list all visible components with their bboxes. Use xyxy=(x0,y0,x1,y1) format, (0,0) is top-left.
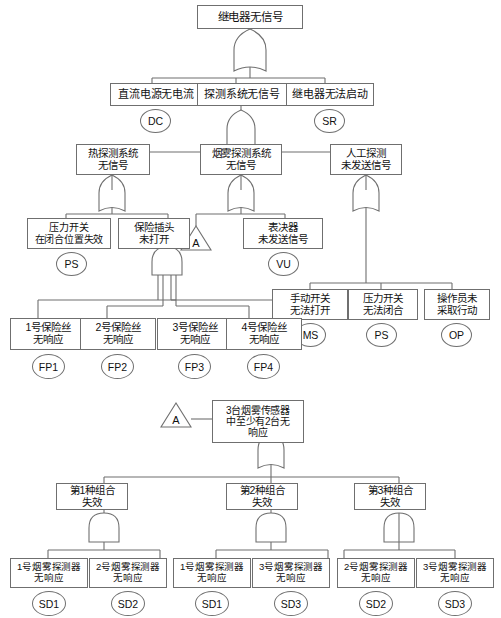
code-sd2-b[interactable]: SD2 xyxy=(359,591,393,616)
fault-tree-diagram: 继电器无信号 直流电源无电流 DC 探测系统无信号 继电器无法启动 SR 热探测… xyxy=(0,0,501,618)
gate-or-top xyxy=(234,29,266,71)
node-smoke-detector-3b[interactable]: 3号烟雾探测器 无响应 xyxy=(416,558,494,588)
code-sd3-b[interactable]: SD3 xyxy=(438,591,472,616)
code-fp2[interactable]: FP2 xyxy=(101,354,134,379)
node-label: 1号烟雾探测器 无响应 xyxy=(16,562,82,583)
node-label: 直流电源无电流 xyxy=(117,88,195,100)
node-relay-start[interactable]: 继电器无法启动 xyxy=(286,83,374,106)
node-label: 探测系统无信号 xyxy=(203,88,281,100)
node-label: 第2种组合 失效 xyxy=(239,485,286,509)
code-label: SR xyxy=(322,115,337,127)
node-label: 1号保险丝 无响应 xyxy=(25,322,72,346)
gate-or-detection xyxy=(227,110,255,148)
code-fp4[interactable]: FP4 xyxy=(247,354,280,379)
gate-and-combo-2 xyxy=(256,513,286,542)
node-smoke-detector-2a[interactable]: 2号烟雾探测器 无响应 xyxy=(89,558,167,588)
node-label: 3号烟雾探测器 无响应 xyxy=(422,562,488,583)
node-fuse-3[interactable]: 3号保险丝 无响应 xyxy=(157,318,233,350)
node-pressure-switch-close-fail[interactable]: 压力开关 无法闭合 xyxy=(348,289,418,320)
node-label: 4号保险丝 无响应 xyxy=(241,322,288,346)
code-label: SD2 xyxy=(118,598,138,610)
transfer-id: A xyxy=(192,237,199,249)
transfer-label-lower: A xyxy=(161,403,191,429)
node-manual-detection[interactable]: 人工探测 未发送信号 xyxy=(330,144,402,175)
node-smoke-detector-1b[interactable]: 1号烟雾探测器 无响应 xyxy=(173,558,251,588)
node-label: 第3种组合 失效 xyxy=(367,485,414,509)
node-label: 2号烟雾探测器 无响应 xyxy=(95,562,161,583)
code-sr[interactable]: SR xyxy=(314,109,345,133)
node-label: 热探测系统 无信号 xyxy=(87,148,138,172)
transfer-id: A xyxy=(172,414,179,426)
node-voter[interactable]: 表决器 未发送信号 xyxy=(243,218,323,249)
code-label: SD2 xyxy=(366,598,386,610)
node-fuse-4[interactable]: 4号保险丝 无响应 xyxy=(226,318,302,350)
code-label: PS xyxy=(64,258,78,270)
node-combo-2[interactable]: 第2种组合 失效 xyxy=(226,483,298,510)
code-sd1-a[interactable]: SD1 xyxy=(32,591,66,616)
node-combo-3[interactable]: 第3种组合 失效 xyxy=(354,483,426,510)
node-label: 压力开关 无法闭合 xyxy=(362,293,403,317)
node-top[interactable]: 继电器无信号 xyxy=(197,5,303,29)
node-pressure-switch-closed[interactable]: 压力开关 在闭合位置失效 xyxy=(27,218,111,249)
node-subtree-root[interactable]: 3台烟雾传感器 中至少有2台无 响应 xyxy=(212,400,304,443)
node-label: 压力开关 在闭合位置失效 xyxy=(34,222,105,244)
code-ps-1[interactable]: PS xyxy=(56,252,87,276)
code-label: DC xyxy=(148,115,163,127)
code-fp1[interactable]: FP1 xyxy=(32,354,65,379)
node-label: 2号保险丝 无响应 xyxy=(95,322,142,346)
node-label: 第1种组合 失效 xyxy=(69,485,116,509)
node-fuse-plug[interactable]: 保险插头 未打开 xyxy=(118,218,190,249)
node-manual-switch[interactable]: 手动开关 无法打开 xyxy=(272,289,348,320)
node-label: 1号烟雾探测器 无响应 xyxy=(179,562,245,583)
node-fuse-1[interactable]: 1号保险丝 无响应 xyxy=(10,318,86,350)
node-label: 烟雾探测系统 无信号 xyxy=(211,148,272,172)
node-dc[interactable]: 直流电源无电流 xyxy=(110,83,202,106)
node-label: 手动开关 无法打开 xyxy=(289,293,330,317)
code-label: VU xyxy=(276,258,291,270)
code-label: SD1 xyxy=(39,598,59,610)
code-label: FP3 xyxy=(185,361,204,373)
node-fuse-2[interactable]: 2号保险丝 无响应 xyxy=(80,318,156,350)
code-label: SD1 xyxy=(202,598,222,610)
code-sd1-b[interactable]: SD1 xyxy=(195,591,229,616)
node-label: 3号保险丝 无响应 xyxy=(172,322,219,346)
code-label: FP1 xyxy=(39,361,58,373)
code-ps-2[interactable]: PS xyxy=(366,323,397,347)
transfer-label-upper: A xyxy=(181,226,211,252)
node-label: 人工探测 未发送信号 xyxy=(340,148,391,172)
node-label: 3号烟雾探测器 无响应 xyxy=(258,562,324,583)
node-label: 保险插头 未打开 xyxy=(133,222,174,246)
node-label: 3台烟雾传感器 中至少有2台无 响应 xyxy=(225,405,291,439)
code-sd3-a[interactable]: SD3 xyxy=(274,591,308,616)
node-detection-system[interactable]: 探测系统无信号 xyxy=(197,83,287,106)
node-label: 表决器 未发送信号 xyxy=(257,222,308,246)
code-label: FP2 xyxy=(108,361,127,373)
code-label: OP xyxy=(449,329,464,341)
node-smoke-detector-2b[interactable]: 2号烟雾探测器 无响应 xyxy=(337,558,415,588)
gate-and-combo-1 xyxy=(89,513,119,542)
code-label: SD3 xyxy=(445,598,465,610)
code-label: PS xyxy=(374,329,388,341)
gate-and-fuseplug xyxy=(152,247,182,275)
node-smoke-detector-1a[interactable]: 1号烟雾探测器 无响应 xyxy=(10,558,88,588)
node-label: 继电器无法启动 xyxy=(291,88,369,100)
node-label: 操作员未 采取行动 xyxy=(436,293,477,317)
node-smoke-detection[interactable]: 烟雾探测系统 无信号 xyxy=(200,144,282,175)
code-label: SD3 xyxy=(281,598,301,610)
code-vu[interactable]: VU xyxy=(268,252,299,276)
code-dc[interactable]: DC xyxy=(140,109,171,133)
code-label: MS xyxy=(303,329,319,341)
code-label: FP4 xyxy=(254,361,273,373)
code-op[interactable]: OP xyxy=(441,323,472,347)
node-label: 2号烟雾探测器 无响应 xyxy=(343,562,409,583)
node-heat-detection[interactable]: 热探测系统 无信号 xyxy=(76,144,150,175)
node-operator-inaction[interactable]: 操作员未 采取行动 xyxy=(424,289,490,320)
node-combo-1[interactable]: 第1种组合 失效 xyxy=(56,483,128,510)
code-fp3[interactable]: FP3 xyxy=(178,354,211,379)
code-sd2-a[interactable]: SD2 xyxy=(111,591,145,616)
node-label: 继电器无信号 xyxy=(217,11,284,24)
node-smoke-detector-3a[interactable]: 3号烟雾探测器 无响应 xyxy=(252,558,330,588)
